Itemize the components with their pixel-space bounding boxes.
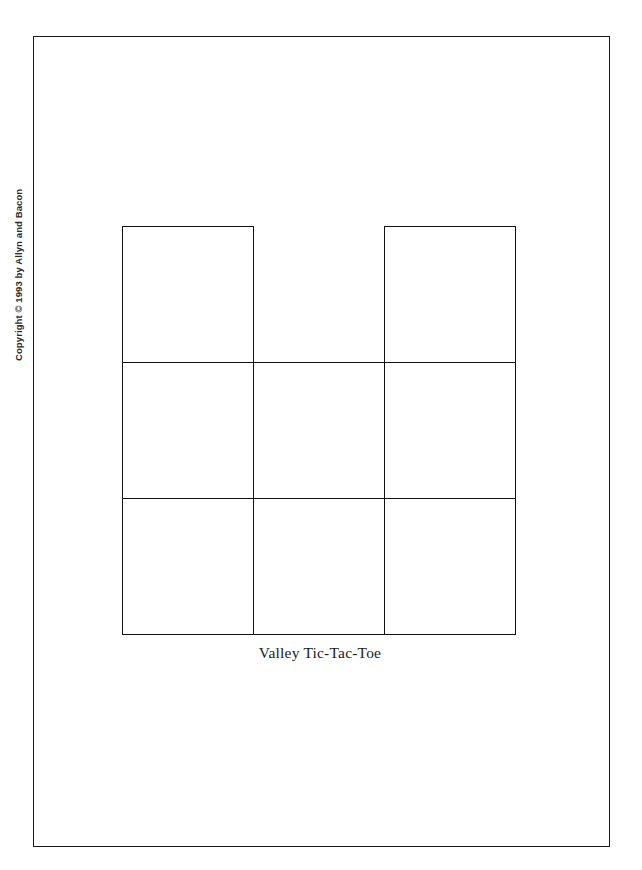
grid-cell-r0c2[interactable]: [384, 226, 516, 363]
valley-tic-tac-toe-grid: [122, 226, 518, 636]
grid-cell-r0c1-valley-gap: [253, 226, 385, 363]
grid-cell-r1c0[interactable]: [122, 362, 254, 499]
grid-cell-r1c2[interactable]: [384, 362, 516, 499]
grid-cell-r2c0[interactable]: [122, 498, 254, 635]
grid-cell-r0c0[interactable]: [122, 226, 254, 363]
figure-caption: Valley Tic-Tac-Toe: [122, 644, 518, 662]
grid-cell-r2c1[interactable]: [253, 498, 385, 635]
grid-cell-r1c1[interactable]: [253, 362, 385, 499]
worksheet-page: Copyright © 1993 by Allyn and Bacon Vall…: [0, 0, 642, 870]
copyright-notice: Copyright © 1993 by Allyn and Bacon: [11, 185, 27, 361]
valley-tic-tac-toe-figure: Valley Tic-Tac-Toe: [122, 226, 518, 636]
grid-cell-r2c2[interactable]: [384, 498, 516, 635]
